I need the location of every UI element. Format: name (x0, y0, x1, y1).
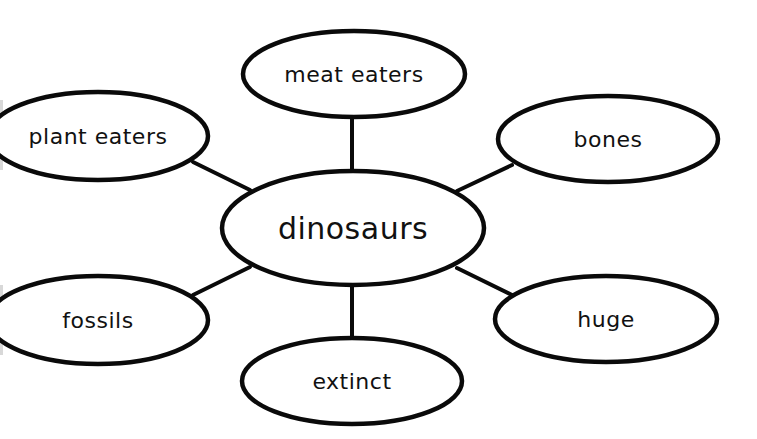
node-label: bones (574, 127, 643, 152)
node-extinct: extinct (242, 338, 462, 424)
node-plant-eaters: plant eaters (0, 92, 208, 180)
node-fossils: fossils (0, 276, 208, 364)
concept-web-diagram: dinosaurs meat eaters plant eaters bones… (0, 0, 757, 439)
node-bones: bones (498, 96, 718, 182)
connector-plant-eaters (193, 162, 250, 190)
node-label: huge (577, 307, 634, 332)
connector-bones (457, 165, 512, 191)
node-label: fossils (62, 308, 133, 333)
node-meat-eaters: meat eaters (243, 31, 465, 117)
center-node-label: dinosaurs (278, 211, 428, 246)
connector-huge (457, 268, 512, 295)
node-label: meat eaters (284, 62, 423, 87)
connector-fossils (193, 267, 250, 295)
node-label: extinct (312, 369, 391, 394)
center-node: dinosaurs (222, 171, 484, 285)
node-label: plant eaters (29, 124, 168, 149)
node-huge: huge (495, 276, 717, 362)
